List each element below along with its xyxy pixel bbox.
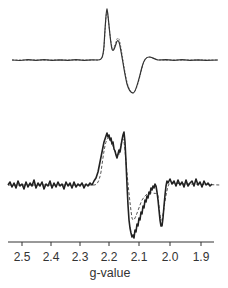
x-tick-label: 1.9 [193,250,210,264]
x-tick-label: 2.1 [131,250,148,264]
bottom-spectrum [8,132,220,238]
bottom-experimental-trace [8,132,212,238]
x-tick-label: 2.5 [14,250,31,264]
x-axis-title: g-value [90,266,131,280]
top-simulation-trace [12,11,218,93]
epr-spectra-chart: 2.5 2.4 2.3 2.2 2.1 2.0 1.9 g-value [0,0,228,288]
x-tick-label: 2.0 [162,250,179,264]
x-tick-label: 2.2 [101,250,118,264]
x-axis: 2.5 2.4 2.3 2.2 2.1 2.0 1.9 g-value [8,242,214,280]
x-tick-label: 2.4 [43,250,60,264]
top-spectrum [12,9,218,93]
x-tick-label: 2.3 [72,250,89,264]
top-experimental-trace [12,9,218,93]
